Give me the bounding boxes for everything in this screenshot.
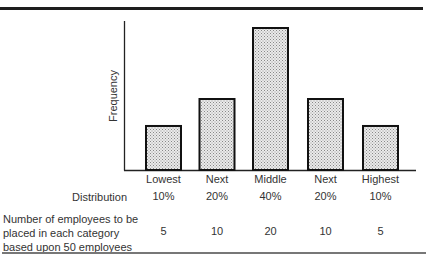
distribution-label: Distribution: [72, 190, 127, 204]
employee-count: 10: [187, 225, 247, 237]
employee-count: 10: [296, 225, 356, 237]
employee-count: 5: [134, 225, 194, 237]
employees-label: Number of employees to be placed in each…: [3, 212, 138, 254]
bar-lowest: [146, 126, 181, 170]
distribution-value: 20%: [187, 190, 247, 202]
bottom-rule: [2, 252, 426, 254]
employee-count: 20: [241, 225, 301, 237]
bar-next: [200, 99, 235, 170]
y-axis-label: Frequency: [107, 70, 119, 122]
category-label: Highest: [351, 173, 411, 185]
bars: [146, 28, 398, 170]
category-label: Middle: [241, 173, 301, 185]
bar-highest: [363, 126, 398, 170]
category-label: Next: [187, 173, 247, 185]
bar-next: [308, 99, 343, 170]
employee-count: 5: [351, 225, 411, 237]
category-label: Next: [296, 173, 356, 185]
distribution-value: 40%: [241, 190, 301, 202]
distribution-value: 10%: [351, 190, 411, 202]
distribution-value: 20%: [296, 190, 356, 202]
distribution-value: 10%: [134, 190, 194, 202]
category-label: Lowest: [134, 173, 194, 185]
bar-middle: [253, 28, 288, 170]
